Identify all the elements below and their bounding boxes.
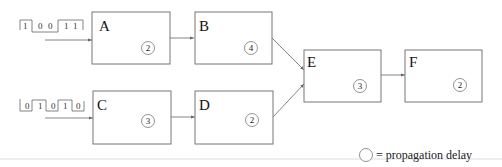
input-waveform-1: 1 0 0 1 1: [20, 20, 83, 32]
legend-text: = propagation delay: [376, 148, 472, 162]
block-label: E: [307, 54, 316, 70]
bit: 0: [25, 101, 30, 111]
block-b[interactable]: B 4: [195, 12, 272, 64]
block-f[interactable]: F 2: [405, 50, 482, 102]
block-label: C: [97, 97, 107, 113]
block-label: F: [409, 54, 417, 70]
delay-value: 3: [146, 116, 151, 126]
bit: 1: [73, 21, 78, 31]
bit: 0: [48, 21, 53, 31]
block-label: B: [199, 18, 209, 34]
block-label: D: [199, 97, 210, 113]
bit: 0: [51, 101, 56, 111]
legend: = propagation delay: [360, 148, 473, 162]
delay-value: 2: [458, 80, 463, 90]
delay-value: 2: [146, 43, 151, 53]
pipeline-diagram: 1 0 0 1 1 0 1 0 1 0 A 2 B 4 C 3: [0, 0, 502, 167]
bit: 1: [64, 21, 69, 31]
edge-b-e: [272, 38, 304, 70]
block-e[interactable]: E 3: [304, 50, 381, 102]
bit: 0: [38, 21, 43, 31]
bit: 1: [38, 101, 43, 111]
input-waveform-2: 0 1 0 1 0: [20, 99, 84, 111]
edge-d-e: [273, 84, 304, 117]
block-c[interactable]: C 3: [93, 91, 171, 144]
delay-value: 3: [358, 81, 363, 91]
bit: 1: [63, 101, 68, 111]
delay-value: 4: [249, 43, 254, 53]
block-a[interactable]: A 2: [92, 12, 170, 64]
block-d[interactable]: D 2: [195, 91, 273, 144]
bit: 1: [23, 21, 28, 31]
delay-value: 2: [250, 115, 255, 125]
block-label: A: [99, 18, 110, 34]
legend-circle-icon: [360, 149, 373, 162]
bit: 0: [76, 101, 81, 111]
